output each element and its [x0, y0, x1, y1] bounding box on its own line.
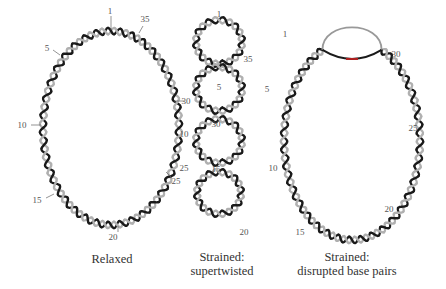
base-pair-label: 35 [141, 14, 151, 24]
base-pair-label: 15 [33, 195, 43, 205]
caption-disrupted: Strained: disrupted base pairs [272, 250, 422, 278]
base-pair-label: 20 [240, 227, 250, 237]
caption-disrupted-line2: disrupted base pairs [272, 264, 422, 278]
disrupted-base-pairs-dna-circle [281, 27, 423, 243]
base-pair-label: 25 [409, 123, 419, 133]
base-pair-label: 1 [283, 29, 288, 39]
base-pair-label: 25 [172, 176, 182, 186]
label-leader-line [53, 50, 60, 55]
caption-supertwisted-line1: Strained: [172, 250, 272, 264]
supertwisted-dna-figure [193, 17, 244, 216]
caption-disrupted-line1: Strained: [272, 250, 422, 264]
base-pair-label: 1 [217, 9, 222, 19]
base-pair-label: 35 [244, 54, 254, 64]
base-pair-label: 20 [385, 204, 395, 214]
base-pair-label: 10 [180, 129, 190, 139]
caption-supertwisted: Strained: supertwisted [172, 250, 272, 278]
base-pair-label: 20 [109, 232, 119, 242]
dna-supercoiling-diagram: 1355301025152013553010251520130525102015 [0, 0, 446, 289]
base-pair-label: 15 [212, 164, 222, 174]
relaxed-dna-circle [40, 28, 182, 228]
label-leader-line [46, 194, 54, 198]
base-pair-label: 30 [392, 49, 402, 59]
label-leader-line [139, 26, 143, 33]
caption-relaxed-line1: Relaxed [62, 252, 162, 266]
base-pair-label: 1 [108, 6, 113, 16]
base-pair-label: 10 [18, 120, 28, 130]
base-pair-label: 15 [296, 227, 306, 237]
base-pair-label: 5 [45, 43, 50, 53]
base-pair-label: 30 [212, 119, 222, 129]
caption-supertwisted-line2: supertwisted [172, 264, 272, 278]
base-pair-label: 5 [265, 84, 270, 94]
base-pair-label: 25 [180, 163, 190, 173]
base-pair-label: 10 [269, 163, 279, 173]
caption-relaxed: Relaxed [62, 252, 162, 266]
base-pair-label: 5 [217, 82, 222, 92]
